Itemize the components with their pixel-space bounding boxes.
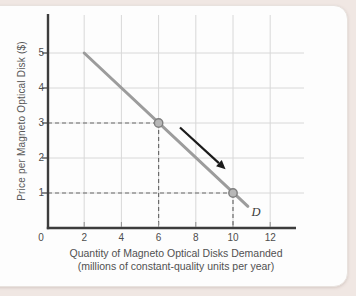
x-tick-label: 6 [149,232,169,243]
x-tick-label: 2 [74,232,94,243]
x-tick-label: 10 [223,232,243,243]
y-tick-label: 4 [27,82,44,93]
y-tick-label: 2 [27,152,44,163]
data-point [229,189,237,197]
data-point [154,119,162,127]
y-tick-label: 3 [27,117,44,128]
x-tick-label: 8 [186,232,206,243]
demand-curve [84,53,248,206]
y-axis-title: Price per Magneto Optical Disk ($) [16,14,27,228]
x-tick-label: 0 [31,232,51,243]
x-tick-label: 4 [111,232,131,243]
textbook-figure-page: Price per Magneto Optical Disk ($) 12345… [0,0,356,296]
x-tick-label: 12 [260,232,280,243]
x-axis-title: Quantity of Magneto Optical Disks Demand… [40,247,312,259]
x-axis-subtitle: (millions of constant-quality units per … [40,260,312,272]
y-tick-label: 5 [27,47,44,58]
y-tick-label: 1 [27,187,44,198]
demand-curve-label: D [248,205,264,220]
